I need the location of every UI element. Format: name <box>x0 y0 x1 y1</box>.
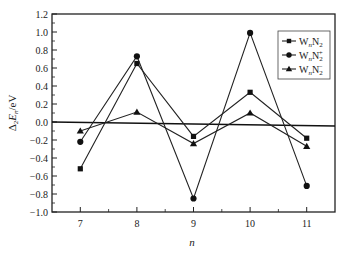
zero-reference-line <box>52 122 335 126</box>
data-point-square <box>78 166 83 171</box>
series-line <box>80 64 306 169</box>
legend-label: WnN2+ <box>299 49 323 63</box>
series-circle <box>77 30 310 202</box>
zero-line <box>52 122 335 126</box>
data-point-triangle <box>303 143 310 149</box>
legend-label: WnN2− <box>299 63 323 77</box>
y-tick-label: −0.4 <box>30 153 48 164</box>
data-point-circle <box>247 30 253 36</box>
y-tick-label: −0.8 <box>30 189 48 200</box>
data-point-square <box>304 136 309 141</box>
y-axis: −1.0−0.8−0.6−0.4−0.20.00.20.40.60.81.01.… <box>30 9 57 218</box>
series-line <box>80 33 306 199</box>
legend: WnN2WnN2+WnN2− <box>278 31 330 79</box>
x-tick-label: 10 <box>245 218 255 229</box>
data-point-circle <box>134 53 140 59</box>
x-tick-label: 7 <box>78 218 83 229</box>
y-tick-label: 0.0 <box>36 117 49 128</box>
y-tick-label: 0.4 <box>36 81 49 92</box>
y-tick-label: 0.8 <box>36 45 49 56</box>
x-tick-label: 9 <box>191 218 196 229</box>
y-tick-label: 0.2 <box>36 99 49 110</box>
y-tick-label: 1.2 <box>36 9 49 20</box>
y-axis-title: Δ2En/eV <box>6 95 20 132</box>
line-chart: −1.0−0.8−0.6−0.4−0.20.00.20.40.60.81.01.… <box>0 0 345 254</box>
data-point-circle <box>190 195 196 201</box>
data-point-circle <box>304 183 310 189</box>
data-point-square <box>191 134 196 139</box>
x-axis: 7891011 <box>78 207 312 229</box>
y-tick-label: 0.6 <box>36 63 49 74</box>
data-point-square <box>248 90 253 95</box>
data-point-triangle <box>247 109 254 115</box>
x-tick-label: 11 <box>302 218 312 229</box>
y-tick-label: −0.2 <box>30 135 48 146</box>
legend-marker-circle <box>286 52 291 57</box>
legend-marker-square <box>287 39 291 43</box>
y-tick-label: −1.0 <box>30 207 48 218</box>
data-point-circle <box>77 139 83 145</box>
data-point-triangle <box>133 109 140 115</box>
data-point-triangle <box>190 140 197 146</box>
data-series <box>77 30 311 202</box>
series-square <box>78 61 310 171</box>
x-tick-label: 8 <box>134 218 139 229</box>
y-tick-label: 1.0 <box>36 27 49 38</box>
x-axis-title: n <box>189 236 195 248</box>
series-triangle <box>77 109 311 149</box>
y-tick-label: −0.6 <box>30 171 48 182</box>
